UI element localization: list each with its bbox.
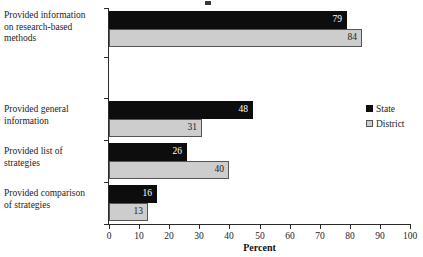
x-axis-tick: [139, 224, 140, 229]
bar-district-research-based-methods: 84: [109, 29, 362, 47]
x-axis-tick: [320, 224, 321, 229]
category-label-line: of strategies: [4, 200, 108, 212]
x-axis-tick: [199, 224, 200, 229]
category-label-line: Provided information: [4, 10, 108, 22]
legend-item-district: District: [366, 117, 405, 130]
bar-value-label: 26: [173, 147, 183, 157]
category-label-research-based-methods: Provided information on research-based m…: [4, 10, 108, 45]
x-axis-tick-label: 10: [124, 231, 154, 241]
category-label-line: Provided list of: [4, 146, 108, 158]
category-label-general-information: Provided general information: [4, 104, 108, 127]
legend-swatch-state-icon: [366, 105, 373, 112]
x-axis-tick-label: 0: [94, 231, 124, 241]
bar-state-list-of-strategies: 26: [109, 143, 187, 161]
legend-swatch-district-icon: [366, 120, 373, 127]
x-axis-tick-label: 100: [395, 231, 423, 241]
category-label-line: Provided general: [4, 104, 108, 116]
bar-state-comparison-of-strategies: 16: [109, 185, 157, 203]
x-axis-tick-label: 70: [305, 231, 335, 241]
x-axis-tick: [350, 224, 351, 229]
category-label-line: strategies: [4, 158, 108, 170]
bar-value-label: 16: [143, 189, 153, 199]
legend-item-state: State: [366, 102, 405, 115]
title-artifact-mark: [205, 1, 211, 5]
category-label-line: on research-based: [4, 22, 108, 34]
x-axis-tick: [410, 224, 411, 229]
x-axis-tick-label: 20: [154, 231, 184, 241]
x-axis-title: Percent: [109, 242, 410, 253]
bar-value-label: 84: [348, 33, 358, 43]
legend-label-district: District: [376, 119, 405, 129]
category-label-list-of-strategies: Provided list of strategies: [4, 146, 108, 169]
x-axis-tick: [109, 224, 110, 229]
legend: State District: [366, 102, 405, 132]
x-axis-tick-label: 90: [365, 231, 395, 241]
x-axis-tick-label: 80: [335, 231, 365, 241]
plot-area: 79 84 48 31 26 40 16 13: [109, 8, 410, 224]
x-axis-tick-label: 50: [245, 231, 275, 241]
bar-value-label: 40: [215, 165, 225, 175]
x-axis-tick-label: 40: [214, 231, 244, 241]
x-axis-tick-label: 60: [275, 231, 305, 241]
x-axis-tick: [290, 224, 291, 229]
bar-state-research-based-methods: 79: [109, 11, 347, 29]
bar-district-comparison-of-strategies: 13: [109, 203, 148, 221]
x-axis-line: [108, 224, 410, 225]
category-label-line: Provided comparison: [4, 188, 108, 200]
bar-value-label: 48: [239, 105, 249, 115]
x-axis-tick: [169, 224, 170, 229]
bar-state-general-information: 48: [109, 101, 253, 119]
bar-value-label: 79: [333, 15, 343, 25]
bar-district-list-of-strategies: 40: [109, 161, 229, 179]
bar-value-label: 13: [134, 207, 144, 217]
legend-label-state: State: [376, 104, 395, 114]
category-label-comparison-of-strategies: Provided comparison of strategies: [4, 188, 108, 211]
bar-value-label: 31: [188, 123, 198, 133]
x-axis-tick: [260, 224, 261, 229]
category-label-line: methods: [4, 33, 108, 45]
bar-chart: Provided information on research-based m…: [0, 0, 423, 257]
x-axis-tick-label: 30: [184, 231, 214, 241]
x-axis-tick: [380, 224, 381, 229]
x-axis-tick: [229, 224, 230, 229]
category-label-line: information: [4, 116, 108, 128]
bar-district-general-information: 31: [109, 119, 202, 137]
